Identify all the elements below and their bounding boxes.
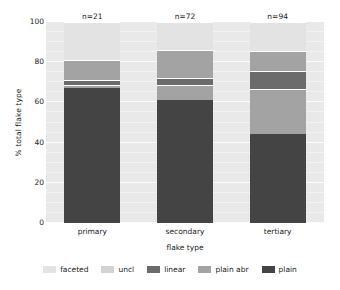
bar-stack[interactable] [64,22,120,223]
legend-item[interactable]: plain abr [198,265,248,274]
y-tick-label: 0 [18,219,44,227]
sample-size-label: n=72 [145,12,225,21]
bar-segment-faceted[interactable] [157,22,213,50]
legend-label: linear [164,265,185,274]
bar-segment-plain-abr[interactable] [157,50,213,78]
bar-segment-plain[interactable] [157,100,213,223]
y-tick-label: 80 [18,58,44,66]
legend-label: plain [279,265,297,274]
bar-segment-plain-abr[interactable] [64,85,120,88]
y-tick-label: 40 [18,139,44,147]
bar-segment-plain[interactable] [64,88,120,223]
bar-segment-linear[interactable] [157,78,213,85]
y-tick-label: 100 [18,18,44,26]
y-tick-label: 60 [18,98,44,106]
bar-segment-plain-abr[interactable] [64,60,120,80]
bar-segment-linear[interactable] [250,71,306,89]
sample-size-label: n=21 [52,12,132,21]
legend-item[interactable]: linear [147,265,185,274]
x-axis-label: flake type [46,243,324,252]
bar-segment-plain-abr[interactable] [250,89,306,133]
legend-swatch-icon [262,266,275,273]
legend-item[interactable]: uncl [101,265,134,274]
bar-segment-plain-abr[interactable] [250,51,306,71]
category-label: primary [47,227,137,236]
bar-segment-linear[interactable] [64,80,120,85]
category-label: tertiary [233,227,323,236]
legend-item[interactable]: plain [262,265,297,274]
legend-swatch-icon [147,266,160,273]
chart-figure: % total flake type flake type 1008060402… [0,0,340,290]
category-label: secondary [140,227,230,236]
legend-swatch-icon [43,266,56,273]
legend-label: plain abr [215,265,248,274]
legend-label: uncl [118,265,134,274]
legend-item[interactable]: faceted [43,265,88,274]
bar-stack[interactable] [157,22,213,223]
sample-size-label: n=94 [238,12,318,21]
bar-segment-plain-abr[interactable] [157,85,213,100]
legend-swatch-icon [198,266,211,273]
plot-area [46,22,324,223]
legend-swatch-icon [101,266,114,273]
bar-stack[interactable] [250,22,306,223]
chart-legend: faceteduncllinearplain abrplain [0,262,340,276]
bar-segment-faceted[interactable] [250,22,306,51]
legend-label: faceted [60,265,88,274]
y-tick-label: 20 [18,179,44,187]
bar-segment-plain[interactable] [250,134,306,223]
bar-segment-faceted[interactable] [64,22,120,60]
y-axis-ticks: 100806040200 [18,22,44,223]
